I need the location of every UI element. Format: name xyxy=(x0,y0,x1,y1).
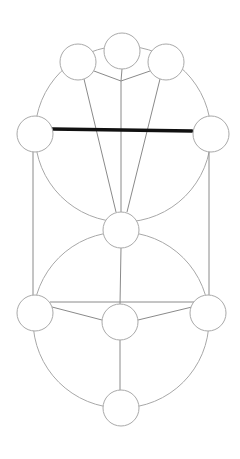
node-mid-left[interactable] xyxy=(17,116,53,152)
edge-topleft-junction xyxy=(94,71,121,81)
node-low-center[interactable] xyxy=(102,304,138,340)
edge-top-junction xyxy=(121,69,122,81)
node-low-left[interactable] xyxy=(17,295,53,331)
edge-lowright-lowcenter xyxy=(138,307,192,320)
edge-center-lowcenter xyxy=(120,248,121,304)
upper-circle xyxy=(35,46,211,222)
edge-topleft-center xyxy=(84,79,116,212)
node-low-right[interactable] xyxy=(190,295,226,331)
edge-topright-junction xyxy=(121,71,150,81)
node-bottom[interactable] xyxy=(103,390,139,426)
node-top-right[interactable] xyxy=(148,44,184,80)
highlighted-edge xyxy=(52,129,192,131)
node-center[interactable] xyxy=(103,212,139,248)
edge-lowleft-lowcenter xyxy=(52,307,102,320)
node-top-left[interactable] xyxy=(60,44,96,80)
tree-diagram xyxy=(0,0,240,459)
node-top[interactable] xyxy=(104,33,140,69)
edge-topright-center xyxy=(127,79,160,212)
node-mid-right[interactable] xyxy=(193,116,229,152)
